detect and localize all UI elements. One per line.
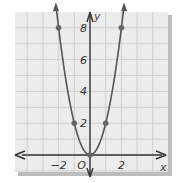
data-point	[72, 120, 78, 126]
data-point	[103, 120, 109, 126]
curve-arrowhead	[121, 2, 127, 11]
y-tick-label: 6	[80, 54, 87, 67]
x-tick-label: −2	[50, 159, 66, 172]
x-tick-label: 2	[118, 159, 125, 172]
data-point	[56, 25, 62, 31]
y-tick-label: 8	[80, 22, 87, 35]
plot-background	[15, 12, 168, 172]
data-point	[87, 152, 93, 158]
y-tick-label: 2	[80, 117, 87, 130]
y-axis-label: y	[93, 10, 101, 23]
curve-arrowhead	[53, 2, 59, 11]
parabola-chart: −222468Oyx	[0, 0, 182, 183]
x-axis-label: x	[159, 161, 167, 174]
origin-label: O	[77, 159, 86, 172]
data-point	[119, 25, 125, 31]
y-tick-label: 4	[80, 85, 87, 98]
